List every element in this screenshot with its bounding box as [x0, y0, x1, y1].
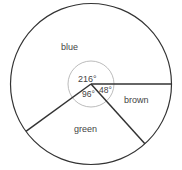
label-brown: brown: [124, 95, 149, 105]
angle-label-blue: 216°: [78, 74, 97, 84]
angle-label-green: 96°: [82, 89, 95, 99]
label-blue: blue: [61, 42, 78, 52]
label-green: green: [74, 124, 97, 134]
pie-chart: blue brown green 216° 48° 96°: [0, 0, 182, 170]
angle-label-brown: 48°: [99, 85, 112, 95]
